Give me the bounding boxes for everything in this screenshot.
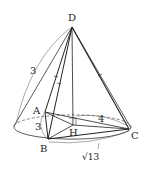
- label-D: D: [68, 12, 76, 23]
- label-B: B: [40, 143, 47, 154]
- label-ab-3: 3: [35, 121, 41, 132]
- tick-mark-DA: [54, 76, 58, 77]
- edge-BC: [48, 129, 129, 139]
- label-slant-3: 3: [30, 65, 36, 76]
- edge-AH: [45, 112, 73, 125]
- cone-diagram: D A B H C 3 3 4 √13: [0, 0, 149, 170]
- edge-DH: [72, 27, 73, 125]
- edge-DB: [48, 27, 72, 139]
- label-A: A: [32, 105, 41, 116]
- bc-leader-line: [98, 143, 99, 149]
- label-bc-sqrt13: √13: [82, 152, 99, 162]
- cone-slant-left: [14, 27, 72, 126]
- label-C: C: [131, 130, 139, 141]
- edge-DA: [45, 27, 72, 112]
- label-hc-4: 4: [98, 113, 104, 124]
- label-H: H: [69, 127, 78, 138]
